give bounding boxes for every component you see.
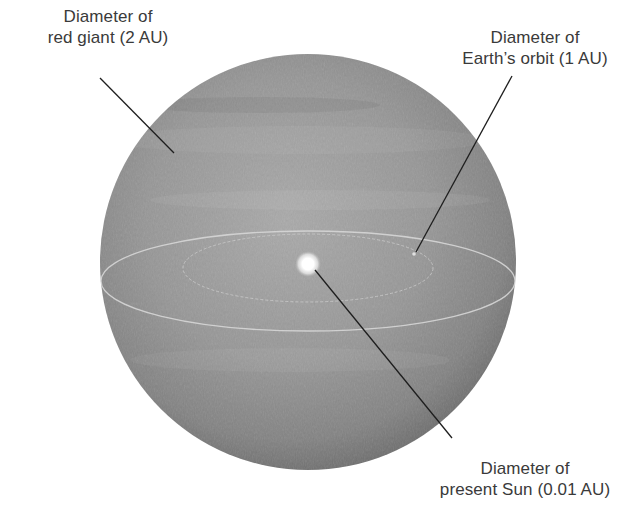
label-red-giant-line1: Diameter of: [28, 6, 188, 27]
label-earth-orbit-line1: Diameter of: [440, 27, 626, 48]
label-earth-orbit-line2: Earth’s orbit (1 AU): [440, 48, 626, 69]
red-giant-diagram: [0, 0, 626, 508]
label-earth-orbit: Diameter of Earth’s orbit (1 AU): [440, 27, 626, 69]
label-red-giant: Diameter of red giant (2 AU): [28, 6, 188, 48]
label-red-giant-line2: red giant (2 AU): [28, 27, 188, 48]
label-present-sun: Diameter of present Sun (0.01 AU): [430, 458, 620, 500]
label-present-sun-line2: present Sun (0.01 AU): [430, 479, 620, 500]
earth-dot: [412, 252, 416, 256]
label-present-sun-line1: Diameter of: [430, 458, 620, 479]
